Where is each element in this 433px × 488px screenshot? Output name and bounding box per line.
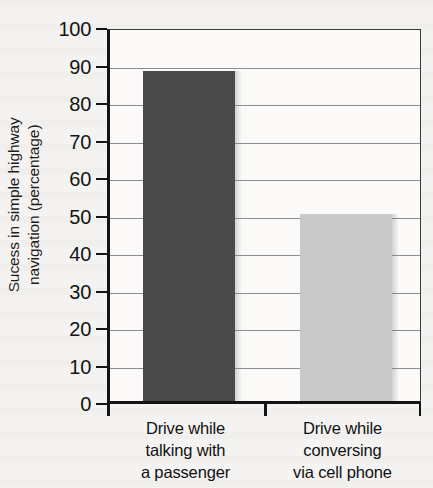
y-tick-mark-20 bbox=[96, 328, 107, 330]
bar-shadow-1 bbox=[390, 214, 399, 402]
gridline-60 bbox=[110, 180, 420, 181]
x-axis-ticks bbox=[107, 404, 421, 417]
bars-layer bbox=[110, 30, 420, 401]
x-axis-label-0-line-1: Drive while bbox=[107, 418, 264, 440]
gridline-90 bbox=[110, 68, 420, 69]
y-tick-label-10: 10 bbox=[69, 356, 96, 376]
gridline-70 bbox=[110, 143, 420, 144]
y-tick-mark-10 bbox=[96, 366, 107, 368]
y-axis-ticks: 1009080706050403020100 bbox=[50, 29, 107, 404]
y-tick-label-40: 40 bbox=[69, 244, 96, 264]
gridline-50 bbox=[110, 218, 420, 219]
x-axis-label-0-line-3: a passenger bbox=[107, 462, 264, 484]
y-tick-label-90: 90 bbox=[69, 56, 96, 76]
x-axis-label-1-line-2: conversing bbox=[264, 440, 421, 462]
gridlines bbox=[110, 30, 420, 401]
gridline-10 bbox=[110, 368, 420, 369]
y-tick-mark-70 bbox=[96, 141, 107, 143]
y-tick-label-100: 100 bbox=[59, 19, 96, 39]
y-axis-title: Sucess in simple highway navigation (per… bbox=[0, 0, 48, 410]
x-axis-label-1-line-3: via cell phone bbox=[264, 462, 421, 484]
y-tick-mark-40 bbox=[96, 253, 107, 255]
x-axis-label-1: Drive while conversing via cell phone bbox=[264, 418, 421, 484]
y-tick-label-80: 80 bbox=[69, 94, 96, 114]
x-tick-1 bbox=[264, 404, 267, 416]
y-axis-title-line-2: navigation (percentage) bbox=[24, 117, 44, 292]
y-tick-mark-100 bbox=[96, 28, 107, 30]
y-tick-mark-0 bbox=[96, 403, 107, 405]
y-tick-label-0: 0 bbox=[80, 394, 96, 414]
y-tick-mark-90 bbox=[96, 66, 107, 68]
gridline-20 bbox=[110, 330, 420, 331]
bar-chart-figure: Sucess in simple highway navigation (per… bbox=[0, 0, 433, 488]
gridline-30 bbox=[110, 293, 420, 294]
y-tick-mark-50 bbox=[96, 216, 107, 218]
x-tick-0 bbox=[107, 404, 110, 416]
y-tick-mark-60 bbox=[96, 178, 107, 180]
x-axis-label-1-line-1: Drive while bbox=[264, 418, 421, 440]
y-tick-label-60: 60 bbox=[69, 169, 96, 189]
y-tick-label-30: 30 bbox=[69, 281, 96, 301]
bar-0 bbox=[143, 71, 235, 401]
y-tick-label-20: 20 bbox=[69, 319, 96, 339]
y-tick-label-50: 50 bbox=[69, 206, 96, 226]
x-tick-2 bbox=[419, 404, 422, 416]
plot-area bbox=[107, 29, 421, 404]
y-tick-label-70: 70 bbox=[69, 131, 96, 151]
bar-1 bbox=[300, 214, 392, 402]
bar-shadow-0 bbox=[233, 71, 242, 401]
y-tick-mark-80 bbox=[96, 103, 107, 105]
gridline-40 bbox=[110, 255, 420, 256]
y-axis-title-line-1: Sucess in simple highway bbox=[4, 117, 24, 292]
y-tick-mark-30 bbox=[96, 291, 107, 293]
x-axis-label-0-line-2: talking with bbox=[107, 440, 264, 462]
x-axis-labels: Drive while talking with a passenger Dri… bbox=[107, 418, 421, 484]
gridline-80 bbox=[110, 105, 420, 106]
x-axis-label-0: Drive while talking with a passenger bbox=[107, 418, 264, 484]
